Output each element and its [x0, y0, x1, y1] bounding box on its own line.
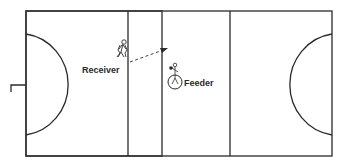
right-goal-circle: [290, 34, 332, 135]
court-diagram: Receiver Feeder: [0, 0, 340, 166]
court-left-section: [26, 11, 162, 156]
feeder-label: Feeder: [184, 78, 214, 88]
goal-post-icon: [11, 85, 26, 92]
left-goal-circle: [26, 34, 68, 135]
court-outline: [26, 11, 332, 156]
running-player-icon: [117, 40, 127, 57]
player-with-ball-icon: [168, 63, 182, 89]
receiver-label: Receiver: [82, 65, 120, 75]
